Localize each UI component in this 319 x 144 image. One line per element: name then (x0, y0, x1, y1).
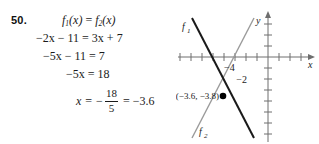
fraction-denominator: 5 (108, 103, 116, 115)
y-axis-arrowhead (265, 11, 271, 18)
equation-0-equals: = (85, 13, 92, 27)
final-result: −3.6 (133, 95, 155, 107)
equation-line-3: −5x = 18 (66, 68, 110, 80)
final-negative-sign: − (96, 95, 103, 107)
final-equals-2: = (120, 95, 133, 107)
intersection-point-label: (−3.6, −3.8) (176, 91, 219, 101)
graph-svg: x y −4 −2 f 1 f 2 (−3.6, −3.8) (176, 0, 319, 144)
equation-line-2: −5x − 11 = 7 (43, 50, 105, 62)
problem-number: 50. (11, 14, 27, 26)
y-tick-label-neg2: −2 (236, 74, 247, 85)
x-axis-label: x (307, 59, 313, 70)
curve-label-f2-sub: 2 (204, 132, 208, 140)
equation-line-4-final: x = − 18 5 = −3.6 (76, 88, 154, 114)
equation-line-0: f1(x) = f2(x) (62, 14, 116, 28)
worked-solution: 50. f1(x) = f2(x) −2x − 11 = 3x + 7 −5x … (0, 0, 176, 144)
curve-label-f1-sub: 1 (187, 27, 191, 35)
equation-0-arg2: (x) (102, 13, 115, 27)
intersection-point-marker (220, 93, 227, 100)
curve-label-f2-name: f (199, 126, 203, 137)
final-equals-1: = (81, 95, 96, 107)
curve-label-f1-name: f (182, 21, 186, 32)
curve-label-f1: f 1 (182, 21, 191, 35)
coordinate-graph: x y −4 −2 f 1 f 2 (−3.6, −3.8) (176, 0, 319, 144)
y-axis-label: y (255, 15, 261, 26)
curve-label-f2: f 2 (199, 126, 208, 140)
equation-line-1: −2x − 11 = 3x + 7 (36, 32, 123, 44)
final-fraction: 18 5 (105, 88, 118, 114)
equation-0-arg1: (x) (69, 13, 82, 27)
x-tick-label-neg4: −4 (224, 62, 235, 73)
textbook-answer-figure: 50. f1(x) = f2(x) −2x − 11 = 3x + 7 −5x … (0, 0, 319, 144)
fraction-numerator: 18 (105, 88, 118, 100)
